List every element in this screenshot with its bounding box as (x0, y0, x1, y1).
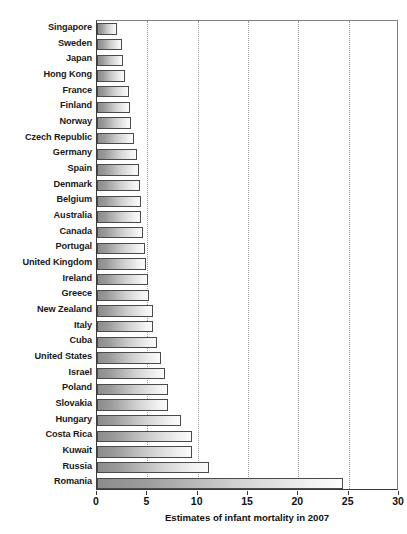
bar[interactable] (97, 431, 192, 442)
plot-area (96, 20, 398, 490)
tick-label-25: 25 (342, 495, 354, 507)
bar[interactable] (97, 117, 131, 128)
tick-label-5: 5 (143, 495, 149, 507)
bar[interactable] (97, 415, 181, 426)
bar[interactable] (97, 86, 129, 97)
bar[interactable] (97, 70, 125, 81)
category-label: Ireland (0, 271, 92, 287)
category-label: Finland (0, 98, 92, 114)
tick-label-10: 10 (191, 495, 203, 507)
tick-label-15: 15 (241, 495, 253, 507)
category-label: Israel (0, 365, 92, 381)
bar[interactable] (97, 227, 143, 238)
category-label: Russia (0, 459, 92, 475)
category-label: Norway (0, 114, 92, 130)
bar[interactable] (97, 446, 192, 457)
category-label: Australia (0, 208, 92, 224)
bar[interactable] (97, 39, 122, 50)
bar[interactable] (97, 274, 148, 285)
bar[interactable] (97, 258, 146, 269)
category-label: Greece (0, 286, 92, 302)
category-label: Singapore (0, 20, 92, 36)
category-label: New Zealand (0, 302, 92, 318)
bar[interactable] (97, 211, 141, 222)
bar[interactable] (97, 180, 140, 191)
bar[interactable] (97, 23, 117, 34)
bar[interactable] (97, 321, 153, 332)
bar[interactable] (97, 399, 168, 410)
category-label: France (0, 83, 92, 99)
category-label: Spain (0, 161, 92, 177)
category-label: Slovakia (0, 396, 92, 412)
bar[interactable] (97, 290, 149, 301)
value-axis-ticks: 051015202530 (96, 491, 398, 509)
bar[interactable] (97, 196, 141, 207)
bar[interactable] (97, 368, 165, 379)
category-label: Poland (0, 380, 92, 396)
category-label: Germany (0, 145, 92, 161)
category-label: Belgium (0, 192, 92, 208)
bar[interactable] (97, 352, 161, 363)
category-label: Denmark (0, 177, 92, 193)
category-label: Italy (0, 318, 92, 334)
bar[interactable] (97, 462, 209, 473)
bar[interactable] (97, 478, 343, 489)
category-label: Kuwait (0, 443, 92, 459)
x-axis-title: Estimates of infant mortality in 2007 (96, 512, 398, 523)
category-axis-labels: SingaporeSwedenJapanHong KongFranceFinla… (0, 20, 92, 490)
category-label: Costa Rica (0, 427, 92, 443)
bar[interactable] (97, 102, 130, 113)
tick-label-20: 20 (291, 495, 303, 507)
category-label: Japan (0, 51, 92, 67)
bar[interactable] (97, 149, 137, 160)
tick-label-30: 30 (392, 495, 404, 507)
bar[interactable] (97, 55, 123, 66)
bar[interactable] (97, 164, 139, 175)
category-label: Hungary (0, 412, 92, 428)
tick-label-0: 0 (93, 495, 99, 507)
category-label: Romania (0, 474, 92, 490)
category-label: Sweden (0, 36, 92, 52)
infant-mortality-bar-chart: SingaporeSwedenJapanHong KongFranceFinla… (0, 0, 407, 534)
category-label: Hong Kong (0, 67, 92, 83)
category-label: United States (0, 349, 92, 365)
category-label: Canada (0, 224, 92, 240)
bar[interactable] (97, 337, 157, 348)
category-label: Portugal (0, 239, 92, 255)
bars-layer (97, 21, 397, 489)
bar[interactable] (97, 243, 145, 254)
category-label: Czech Republic (0, 130, 92, 146)
bar[interactable] (97, 133, 134, 144)
bar[interactable] (97, 305, 153, 316)
bar[interactable] (97, 384, 168, 395)
category-label: United Kingdom (0, 255, 92, 271)
category-label: Cuba (0, 333, 92, 349)
